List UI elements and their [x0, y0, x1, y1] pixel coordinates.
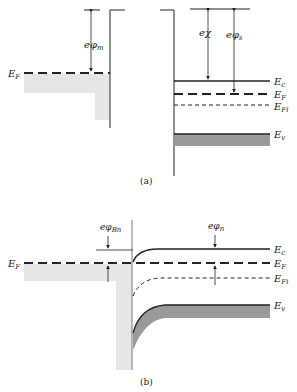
intrinsic-fermi-level-b	[133, 278, 270, 296]
ec-label-b: Ec	[273, 244, 285, 257]
metal-work-function-label: eφm	[84, 39, 104, 52]
valence-band-shading-b	[133, 305, 270, 350]
metal-side: eφm EF	[7, 10, 125, 128]
band-diagram: eφm EF eχ eφs Ec EF EFi Ev (a)	[0, 0, 297, 392]
fermi-label-b-left: EF	[7, 258, 21, 271]
efi-label-b: EFi	[273, 273, 288, 286]
ec-label: Ec	[273, 76, 285, 89]
panel-b: eφBn eφn EF Ec EF EFi Ev (b)	[7, 220, 288, 387]
metal-filled-states-tail	[95, 74, 110, 120]
phi-n-label: eφn	[208, 221, 225, 233]
panel-a: eφm EF eχ eφs Ec EF EFi Ev (a)	[7, 9, 288, 186]
ev-label-b: Ev	[273, 300, 285, 313]
metal-filled-states-b	[24, 264, 132, 281]
semiconductor-side: eχ eφs Ec EF EFi Ev	[160, 9, 288, 176]
barrier-height-label: eφBn	[100, 222, 122, 234]
ef-label-b: EF	[273, 258, 287, 271]
efi-label: EFi	[273, 101, 288, 114]
conduction-band-edge-b	[133, 249, 270, 262]
semiconductor-work-function-label: eφs	[226, 29, 243, 42]
metal-filled-states-tail-b	[116, 264, 132, 370]
caption-a: (a)	[140, 176, 152, 186]
caption-b: (b)	[140, 377, 153, 387]
electron-affinity-label: eχ	[199, 27, 212, 38]
ev-label: Ev	[273, 129, 285, 142]
metal-fermi-label: EF	[7, 68, 21, 81]
valence-band-shading	[174, 134, 270, 146]
